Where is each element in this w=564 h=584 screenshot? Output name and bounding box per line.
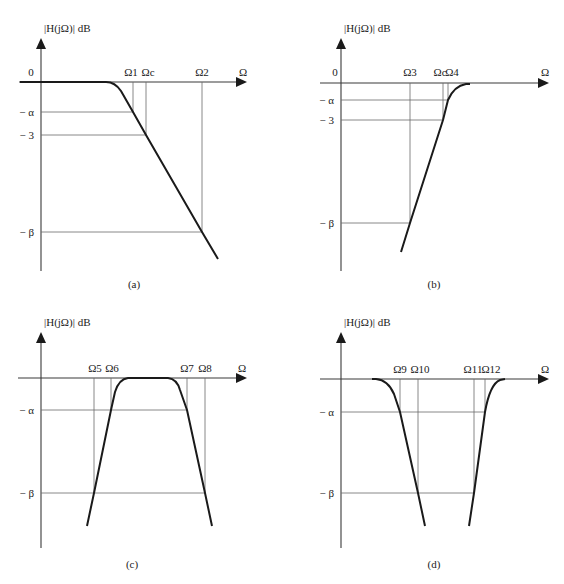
omega6-label: Ω6 bbox=[105, 362, 119, 374]
alpha-label: − α bbox=[319, 406, 334, 418]
y-axis-arrow-icon bbox=[336, 332, 346, 343]
omegac-label: Ωc bbox=[141, 66, 154, 78]
caption-c: (c) bbox=[126, 558, 139, 571]
panel-d-bandstop: |H(jΩ)| dB − α − β Ω9 Ω10 Ω11 Ω12 Ω (d) bbox=[319, 316, 549, 571]
zero-label: 0 bbox=[332, 66, 338, 78]
omega10-label: Ω10 bbox=[410, 363, 430, 375]
filter-response-diagram: |H(jΩ)| dB 0 − α − 3 − β Ω1 Ωc Ω2 Ω (a) … bbox=[0, 0, 564, 584]
alpha-label: − α bbox=[19, 106, 34, 118]
omega5-label: Ω5 bbox=[88, 362, 102, 374]
panel-b-highpass: |H(jΩ)| dB 0 − α − 3 − β Ω3 Ωc Ω4 Ω (b) bbox=[319, 22, 549, 291]
lowpass-curve bbox=[20, 82, 218, 259]
panel-c-bandpass: |H(jΩ)| dB − α − β Ω5 Ω6 Ω7 Ω8 Ω (c) bbox=[18, 316, 247, 571]
y-axis-label: |H(jΩ)| dB bbox=[344, 22, 391, 35]
omega7-label: Ω7 bbox=[180, 362, 194, 374]
y-axis-label: |H(jΩ)| dB bbox=[44, 22, 91, 35]
omega12-label: Ω12 bbox=[481, 363, 500, 375]
minus3-label: − 3 bbox=[320, 114, 335, 126]
omega3-label: Ω3 bbox=[403, 66, 417, 78]
omega-axis-label: Ω bbox=[541, 363, 549, 375]
caption-a: (a) bbox=[128, 278, 141, 291]
alpha-label: − α bbox=[19, 404, 34, 416]
omega8-label: Ω8 bbox=[198, 362, 212, 374]
omega-axis-label: Ω bbox=[239, 66, 247, 78]
omega11-label: Ω11 bbox=[464, 363, 483, 375]
y-axis-label: |H(jΩ)| dB bbox=[344, 316, 391, 329]
caption-b: (b) bbox=[428, 278, 441, 291]
bandstop-curve-lower bbox=[372, 379, 425, 526]
x-axis-arrow-icon bbox=[236, 373, 247, 383]
bandpass-curve bbox=[87, 378, 212, 526]
beta-label: − β bbox=[19, 226, 34, 238]
x-axis-arrow-icon bbox=[538, 78, 549, 88]
y-axis-arrow-icon bbox=[336, 38, 346, 49]
highpass-curve bbox=[401, 84, 470, 252]
beta-label: − β bbox=[319, 217, 334, 229]
omega-axis-label: Ω bbox=[541, 66, 549, 78]
alpha-label: − α bbox=[319, 94, 334, 106]
beta-label: − β bbox=[19, 487, 34, 499]
omega4-label: Ω4 bbox=[445, 66, 459, 78]
beta-label: − β bbox=[319, 487, 334, 499]
x-axis-arrow-icon bbox=[538, 374, 549, 384]
omega9-label: Ω9 bbox=[393, 363, 407, 375]
y-axis-arrow-icon bbox=[36, 332, 46, 343]
y-axis-label: |H(jΩ)| dB bbox=[44, 316, 91, 329]
x-axis-arrow-icon bbox=[236, 77, 247, 87]
minus3-label: − 3 bbox=[20, 129, 35, 141]
y-axis-arrow-icon bbox=[36, 38, 46, 49]
omega1-label: Ω1 bbox=[124, 66, 138, 78]
zero-label: 0 bbox=[28, 66, 34, 78]
omega2-label: Ω2 bbox=[195, 66, 209, 78]
caption-d: (d) bbox=[428, 558, 441, 571]
omega-axis-label: Ω bbox=[238, 362, 246, 374]
panel-a-lowpass: |H(jΩ)| dB 0 − α − 3 − β Ω1 Ωc Ω2 Ω (a) bbox=[19, 22, 247, 291]
